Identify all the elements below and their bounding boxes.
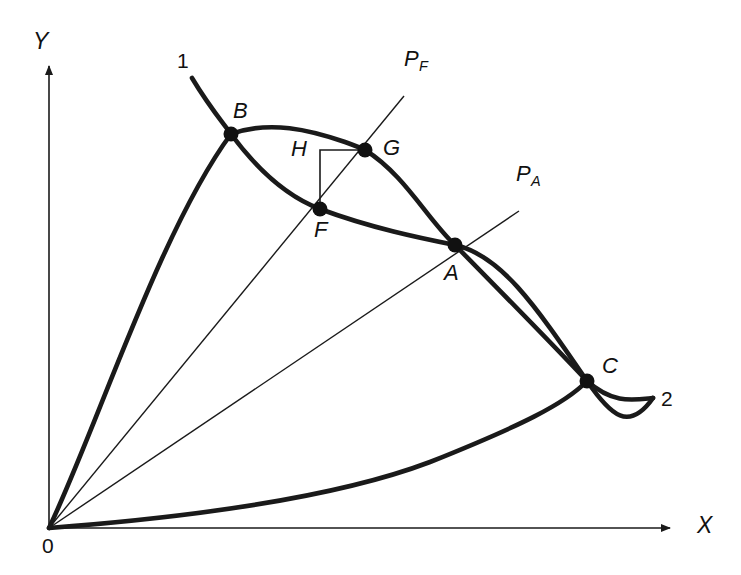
point-g-label: G <box>383 137 400 159</box>
point-g-dot <box>358 143 373 158</box>
point-f-label: F <box>314 219 327 241</box>
y-axis-label: Y <box>33 30 48 53</box>
x-axis-label: X <box>697 514 712 537</box>
curve-2-label: 2 <box>661 388 673 409</box>
point-c-dot <box>580 374 595 389</box>
ray-pf-label-subscript: F <box>419 58 428 74</box>
point-b-dot <box>224 127 239 142</box>
diagram-canvas: Y X 0 1 2 PF PA B G F H A C <box>0 0 741 575</box>
point-b-label: B <box>233 100 248 122</box>
ray-pf-label: PF <box>404 48 428 70</box>
ray-pa-label-subscript: A <box>531 173 541 189</box>
ray-pa-label-base: P <box>516 161 531 186</box>
ray-pf-label-base: P <box>404 46 419 71</box>
point-h-label: H <box>291 138 307 160</box>
point-a-dot <box>448 238 463 253</box>
origin-label: 0 <box>42 535 54 556</box>
curve-three <box>49 381 587 528</box>
curve-two <box>49 127 653 528</box>
point-c-label: C <box>602 355 618 377</box>
right-angle-bracket-h <box>320 150 365 209</box>
ray-pa-label: PA <box>516 163 540 185</box>
diagram-svg <box>0 0 741 575</box>
ray-pf <box>49 96 404 528</box>
point-f-dot <box>313 202 328 217</box>
ray-pa <box>49 211 519 528</box>
curve-1-label: 1 <box>177 50 189 71</box>
point-a-label: A <box>444 262 459 284</box>
